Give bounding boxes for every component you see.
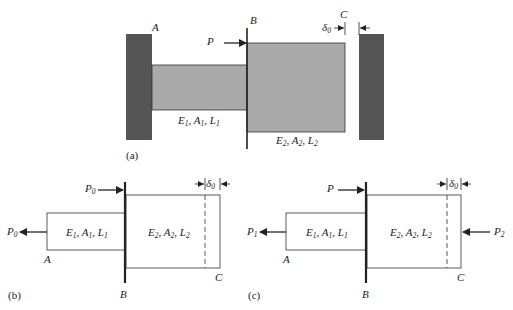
gap-delta-label: δ0 [322, 22, 331, 35]
panel-a-caption: (a) [126, 150, 138, 161]
load-p2-right-label: P2 [494, 226, 504, 239]
segment-2-properties: E2, A2, L2 [276, 135, 318, 148]
segment-1-properties: E1, A1, L1 [66, 227, 108, 240]
diagram-graphics [0, 0, 513, 310]
bar-diagram: A B C P δ0 E1, A1, L1 E2, A2, L2 (a) P0 … [0, 0, 513, 310]
point-b-label: B [250, 15, 257, 26]
panel-b-caption: (b) [8, 290, 21, 301]
left-wall [126, 34, 152, 140]
point-b-label: B [362, 289, 369, 300]
gap-delta-label: δ0 [206, 178, 215, 191]
load-p1-left-label: P1 [247, 226, 257, 239]
segment-1-properties: E1, A1, L1 [178, 115, 220, 128]
point-c-label: C [340, 9, 347, 20]
point-c-label: C [215, 272, 222, 283]
point-c-label: C [457, 272, 464, 283]
delta-subscript: 0 [327, 26, 331, 35]
panel-b [20, 178, 230, 283]
panel-c-caption: (c) [248, 290, 260, 301]
right-wall [359, 34, 384, 140]
panel-c [260, 178, 490, 283]
segment-1-bar [152, 65, 247, 110]
segment-1-properties: E1, A1, L1 [306, 227, 348, 240]
load-p0-top-label: P0 [85, 183, 95, 196]
load-p-top-label: P [327, 183, 334, 194]
load-p-label: P [207, 36, 214, 47]
segment-2-properties: E2, A2, L2 [148, 227, 190, 240]
load-p0-left-label: P0 [7, 226, 17, 239]
point-a-label: A [283, 254, 290, 265]
point-a-label: A [152, 22, 159, 33]
gap-delta-label: δ0 [449, 178, 458, 191]
point-b-label: B [120, 289, 127, 300]
panel-a [126, 22, 384, 149]
segment-2-bar [247, 43, 345, 132]
point-a-label: A [44, 254, 51, 265]
segment-2-properties: E2, A2, L2 [390, 227, 432, 240]
